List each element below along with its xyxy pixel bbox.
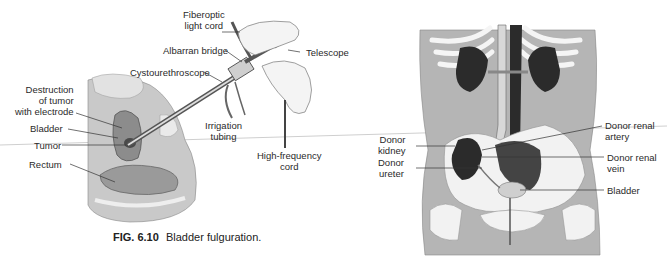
bladder-fulguration-illustration [0,0,667,267]
label-high-frequency-cord: High-frequency cord [257,150,321,172]
label-donor-renal-vein: Donor renal vein [607,152,657,174]
label-cystourethroscope: Cystourethroscope [130,67,210,78]
label-rectum: Rectum [29,159,62,170]
label-bladder-left: Bladder [30,123,63,134]
label-destruction-of-tumor: Destruction of tumor with electrode [15,84,74,117]
kidney-transplant-illustration [416,25,604,255]
label-donor-kidney: Donor kidney [378,134,405,156]
figure-caption-text: Bladder fulguration. [166,231,261,243]
figure-number: FIG. 6.10 [113,231,159,243]
label-tumor: Tumor [34,140,61,151]
label-irrigation-tubing: Irrigation tubing [205,120,242,142]
label-fiberoptic-light-cord: Fiberoptic light cord [183,9,225,31]
label-donor-renal-artery: Donor renal artery [605,120,655,142]
label-bladder-right: Bladder [607,185,640,196]
label-donor-ureter: Donor ureter [378,157,404,179]
label-telescope: Telescope [306,47,349,58]
figure-caption: FIG. 6.10 Bladder fulguration. [113,231,261,243]
label-albarran-bridge: Albarran bridge [163,45,228,56]
